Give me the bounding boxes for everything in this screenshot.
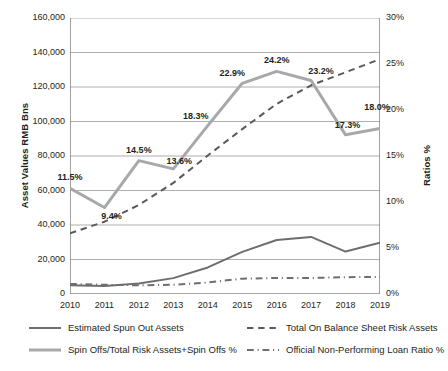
legend-item[interactable]: Spin Offs/Total Risk Assets+Spin Offs %	[28, 344, 237, 355]
y-axis-left-tick: 20,000	[19, 254, 65, 264]
series-line-3	[70, 277, 380, 285]
x-axis-tick: 2019	[360, 300, 400, 310]
y-axis-left-tick: 40,000	[19, 219, 65, 229]
y-axis-left-tick: 160,000	[19, 12, 65, 22]
plot-area	[70, 18, 380, 294]
legend-label: Total On Balance Sheet Risk Assets	[286, 322, 438, 333]
data-label: 14.5%	[117, 145, 161, 155]
data-label: 23.2%	[299, 66, 343, 76]
legend-item[interactable]: Estimated Spun Out Assets	[28, 322, 184, 333]
legend-label: Official Non-Performing Loan Ratio %	[286, 344, 444, 355]
y-axis-left-tick: 100,000	[19, 116, 65, 126]
y-axis-right-tick: 30%	[386, 12, 426, 22]
y-axis-left-tick: 140,000	[19, 47, 65, 57]
plot-svg	[70, 18, 380, 294]
legend-swatch	[246, 323, 280, 333]
y-axis-right-tick: 10%	[386, 196, 426, 206]
data-label: 18.3%	[174, 111, 218, 121]
data-label: 11.5%	[48, 172, 92, 182]
y-axis-left-tick: 120,000	[19, 81, 65, 91]
series-line-2	[70, 71, 380, 207]
series-line-0	[70, 237, 380, 286]
chart-legend: Estimated Spun Out AssetsTotal On Balanc…	[28, 322, 448, 366]
y-axis-left-tick: 0	[19, 288, 65, 298]
chart-container: Asset Values RMB Bns Ratios % 020,00040,…	[0, 0, 448, 371]
legend-swatch	[28, 323, 62, 333]
y-axis-left-tick: 60,000	[19, 185, 65, 195]
legend-item[interactable]: Official Non-Performing Loan Ratio %	[246, 344, 444, 355]
data-label: 24.2%	[255, 55, 299, 65]
y-axis-left-tick: 80,000	[19, 150, 65, 160]
y-axis-right-tick: 25%	[386, 58, 426, 68]
data-label: 13.6%	[157, 156, 201, 166]
data-label: 22.9%	[210, 68, 254, 78]
data-label: 18.0%	[355, 102, 399, 112]
legend-swatch	[246, 345, 280, 355]
y-axis-right-tick: 15%	[386, 150, 426, 160]
legend-swatch	[28, 345, 62, 355]
legend-label: Spin Offs/Total Risk Assets+Spin Offs %	[68, 344, 237, 355]
y-axis-right-tick: 5%	[386, 242, 426, 252]
legend-item[interactable]: Total On Balance Sheet Risk Assets	[246, 322, 438, 333]
y-axis-right-tick: 0%	[386, 288, 426, 298]
data-label: 9.4%	[89, 211, 133, 221]
legend-label: Estimated Spun Out Assets	[68, 322, 184, 333]
data-label: 17.3%	[326, 120, 370, 130]
